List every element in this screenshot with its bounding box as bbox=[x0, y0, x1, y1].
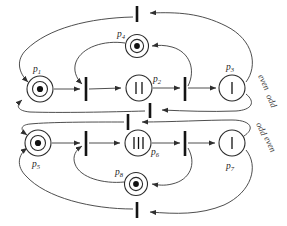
place-p6[interactable] bbox=[125, 130, 151, 156]
place-label-p1: p1 bbox=[32, 64, 41, 75]
side-label-even-lower: even bbox=[262, 135, 278, 155]
place-p4-token bbox=[134, 43, 140, 49]
arc-t-upper-left-to-p2 bbox=[89, 88, 121, 89]
place-label-p5: p5 bbox=[31, 159, 41, 170]
arc-t-bottom-to-p5 bbox=[19, 148, 133, 209]
petri-net-figure: p1 p2 p3 p4 p5 p6 p7 p8 even odd odd eve… bbox=[0, 0, 287, 226]
place-p8[interactable] bbox=[125, 173, 148, 196]
place-label-p6: p6 bbox=[150, 147, 160, 158]
place-p5[interactable] bbox=[25, 130, 51, 156]
arc-p4-to-t-upper-left bbox=[75, 42, 125, 84]
place-p3[interactable] bbox=[219, 75, 245, 101]
place-p2[interactable] bbox=[126, 75, 152, 101]
place-label-p8: p8 bbox=[114, 167, 124, 178]
place-label-p4: p4 bbox=[116, 29, 126, 40]
place-label-p7: p7 bbox=[225, 161, 235, 172]
arc-p7-to-t-bottom bbox=[150, 150, 252, 213]
place-p4[interactable] bbox=[126, 35, 149, 58]
place-p1-token bbox=[37, 86, 43, 92]
place-label-p2: p2 bbox=[152, 74, 162, 85]
place-p5-token bbox=[35, 140, 41, 146]
place-label-p3: p3 bbox=[225, 62, 235, 73]
place-p1[interactable] bbox=[27, 76, 53, 102]
place-p7[interactable] bbox=[219, 130, 245, 156]
arc-p3-to-t-top bbox=[150, 13, 252, 82]
side-label-odd-upper: odd bbox=[264, 93, 279, 110]
side-label-odd-lower: odd bbox=[254, 121, 269, 138]
place-p8-token bbox=[133, 181, 139, 187]
petri-net-canvas: p1 p2 p3 p4 p5 p6 p7 p8 even odd odd eve… bbox=[0, 0, 287, 226]
side-label-even-upper: even bbox=[256, 73, 272, 93]
place-p2-outline bbox=[126, 75, 152, 101]
